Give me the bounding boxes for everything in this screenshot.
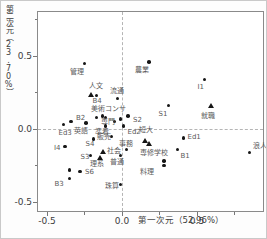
data-point (208, 103, 214, 108)
data-point (248, 151, 252, 155)
data-point (203, 78, 207, 82)
y-tick-label: 0.5 (10, 51, 32, 61)
point-label: 専門 (101, 119, 115, 126)
data-point (84, 121, 88, 125)
point-label: 社会 (107, 148, 121, 155)
point-label: 人文 (89, 83, 103, 90)
data-point (126, 114, 130, 118)
y-tick-label: -0.5 (10, 197, 32, 207)
point-label: S4 (86, 141, 95, 148)
point-label: 美術コンサ (91, 106, 126, 113)
data-point (62, 123, 66, 127)
point-label: Ed3 (59, 130, 72, 137)
point-label: 短大 (139, 127, 153, 134)
x-tick-label: -0.5 (34, 216, 60, 226)
data-point (162, 159, 166, 163)
x-axis-title: 第一次元（52.96%） (61, 213, 224, 225)
plot-area: -0.50.00.50.50.0-0.5管理農業I1B4流通美術コンサS2S1B… (37, 11, 264, 212)
point-label: S6 (85, 169, 94, 176)
point-label: 珠算 (105, 183, 119, 190)
data-point (83, 62, 87, 66)
data-point (182, 136, 186, 140)
data-point (167, 104, 171, 108)
data-point (78, 170, 82, 174)
point-label: 料理 (140, 169, 154, 176)
data-point (176, 148, 180, 152)
point-label: I1 (198, 84, 205, 91)
data-point (69, 120, 73, 124)
scatter-plot-figure: 第二次元（23.70%） -0.50.00.50.50.0-0.5管理農業I1B… (0, 0, 267, 239)
y-minor-tick (35, 19, 38, 20)
point-label: S2 (133, 117, 142, 124)
point-label: 専修学校 (140, 150, 168, 157)
point-label: B3 (55, 181, 64, 188)
data-point (146, 141, 152, 146)
data-point (119, 117, 123, 121)
point-label: 浪人 (253, 143, 267, 150)
data-point (122, 124, 126, 128)
point-label: 流通 (110, 88, 124, 95)
point-label: 理系 (90, 161, 104, 168)
y-major-tick (33, 202, 37, 203)
data-point (162, 164, 166, 168)
y-major-tick (33, 129, 37, 130)
y-tick-label: 0.0 (10, 124, 32, 134)
data-point (95, 116, 99, 120)
point-label: 事務 (119, 141, 133, 148)
point-label: 就職 (201, 113, 215, 120)
point-label: S3 (81, 154, 90, 161)
point-label: 管理 (70, 69, 84, 76)
y-major-tick (33, 56, 37, 57)
data-point (116, 97, 120, 101)
data-point (147, 60, 151, 64)
data-point (88, 92, 94, 97)
point-label: 農業 (135, 67, 149, 74)
point-label: 普通 (110, 159, 124, 166)
data-point (100, 149, 106, 154)
point-label: Ed1 (188, 134, 201, 141)
point-label: S1 (159, 111, 168, 118)
point-label: I4 (54, 145, 61, 152)
point-label: 英語 (74, 128, 88, 135)
point-label: 販売 (97, 134, 111, 141)
y-minor-tick (35, 92, 38, 93)
y-minor-tick (35, 165, 38, 166)
x-minor-tick (234, 212, 235, 215)
point-label: B1 (181, 153, 190, 160)
data-point (68, 168, 72, 172)
data-point (63, 145, 67, 149)
data-point (68, 177, 72, 181)
